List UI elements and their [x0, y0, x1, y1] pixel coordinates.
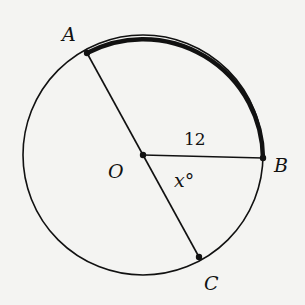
point-a — [84, 50, 90, 56]
point-o — [140, 152, 146, 158]
label-a: A — [60, 23, 76, 45]
label-o: O — [108, 160, 124, 182]
point-c — [196, 254, 202, 260]
radius-ob — [143, 155, 263, 158]
radius-length-label: 12 — [184, 129, 206, 149]
label-c: C — [204, 272, 219, 294]
angle-label: x° — [174, 169, 194, 191]
circle-diagram: A B C O 12 x° — [0, 0, 305, 305]
point-b — [260, 155, 266, 161]
label-b: B — [273, 154, 288, 176]
arc-ab — [87, 39, 263, 158]
